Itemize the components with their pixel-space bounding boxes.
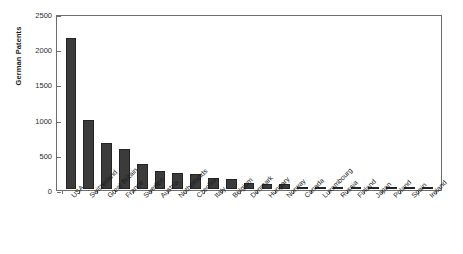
y-axis-tick-mark	[57, 157, 61, 158]
bar-slot	[205, 17, 223, 189]
bar-slot	[383, 17, 401, 189]
x-axis-label-slot: Russia	[330, 193, 348, 253]
bar-slot	[240, 17, 258, 189]
bar-slot	[365, 17, 383, 189]
bar-slot	[276, 17, 294, 189]
y-axis-tick-label: 500	[39, 153, 57, 161]
bar-slot	[347, 17, 365, 189]
plot-area: 05001000150020002500	[56, 15, 442, 191]
x-axis-label-slot: Luxembourg	[312, 193, 330, 253]
bar-slot	[418, 17, 436, 189]
x-axis-label-slot: Japan	[365, 193, 383, 253]
bar-slot	[222, 17, 240, 189]
y-axis-tick-label: 2500	[35, 12, 57, 20]
x-axis-label-slot: Spain	[401, 193, 419, 253]
bar	[226, 179, 237, 189]
x-axis-label-slot: Switzerland	[79, 193, 97, 253]
bar-slot	[400, 17, 418, 189]
y-axis-tick-label: 1000	[35, 118, 57, 126]
y-axis-tick-mark	[57, 16, 61, 17]
y-axis-tick-label: 1500	[35, 83, 57, 91]
bar-slot	[187, 17, 205, 189]
x-axis-labels: USASwitzerlandGreat BritainFranceSwedenA…	[57, 193, 441, 253]
bar-slot	[311, 17, 329, 189]
x-axis-label-slot: Ireland	[419, 193, 437, 253]
bar-slot	[294, 17, 312, 189]
x-axis-label-slot: Canada	[294, 193, 312, 253]
x-axis-label-slot: Netherlands	[168, 193, 186, 253]
y-axis-tick-mark	[57, 86, 61, 87]
x-axis-label-slot: Denmark	[240, 193, 258, 253]
bar-slot	[169, 17, 187, 189]
y-axis-tick-label: 0	[48, 188, 57, 196]
bar-chart: German Patents 05001000150020002500 USAS…	[0, 0, 463, 254]
x-axis-label-slot: USA	[61, 193, 79, 253]
x-axis-label-slot: Sweden	[133, 193, 151, 253]
y-axis-tick-label: 2000	[35, 47, 57, 55]
y-axis-title-text: German Patents	[14, 1, 23, 111]
bar-slot	[80, 17, 98, 189]
bar-slot	[62, 17, 80, 189]
bar-slot	[329, 17, 347, 189]
x-axis-label-slot: Great Britain	[97, 193, 115, 253]
bar-slot	[151, 17, 169, 189]
x-axis-label-slot: Hungary	[258, 193, 276, 253]
x-axis-label-slot: Austria	[151, 193, 169, 253]
bar	[66, 38, 77, 189]
y-axis-tick-mark	[57, 122, 61, 123]
x-axis-label-slot: Belgium	[222, 193, 240, 253]
bar-series	[58, 17, 440, 189]
bar-slot	[133, 17, 151, 189]
x-axis-label-slot: Czechia	[186, 193, 204, 253]
bar-slot	[258, 17, 276, 189]
bar-slot	[115, 17, 133, 189]
y-axis-tick-mark	[57, 51, 61, 52]
bar	[83, 120, 94, 189]
x-axis-label-slot: Norway	[276, 193, 294, 253]
x-axis-label-slot: Poland	[383, 193, 401, 253]
x-axis-label-slot: France	[115, 193, 133, 253]
bar-slot	[98, 17, 116, 189]
x-axis-label-slot: Finland	[348, 193, 366, 253]
x-axis-label-slot: Italy	[204, 193, 222, 253]
y-axis-title: German Patents	[14, 0, 23, 56]
